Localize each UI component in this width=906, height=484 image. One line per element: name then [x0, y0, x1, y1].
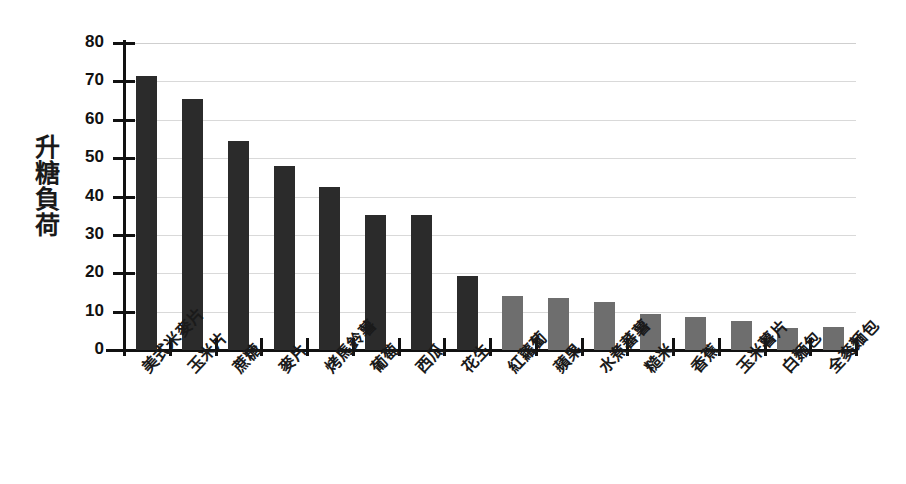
x-axis-label: 全麥麵包	[821, 313, 884, 378]
x-axis-label: 紅蘿蔔	[501, 325, 552, 378]
glycemic-load-bar-chart: 升 糖 負 荷 01020304050607080 美式米麥片玉米片蔗糖麥片烤馬…	[0, 0, 906, 484]
x-axis-label: 西瓜	[409, 337, 449, 378]
x-axis-label: 花生	[455, 337, 495, 378]
x-axis-labels: 美式米麥片玉米片蔗糖麥片烤馬鈴薯葡萄西瓜花生紅蘿蔔蘋果水煮蕃薯糙米香蕉玉米薯片白…	[0, 0, 906, 484]
x-axis-label: 蘋果	[547, 337, 587, 378]
x-axis-label: 蔗糖	[226, 337, 266, 378]
x-axis-label: 葡萄	[364, 337, 404, 378]
x-axis-label: 糙米	[638, 337, 678, 378]
x-axis-label: 麥片	[272, 337, 312, 378]
x-axis-label: 香蕉	[684, 337, 724, 378]
